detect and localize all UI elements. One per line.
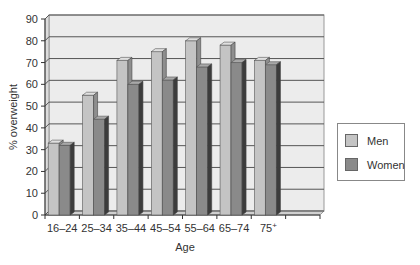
svg-text:65–74: 65–74 xyxy=(219,222,250,234)
legend-label-men: Men xyxy=(367,135,388,147)
svg-text:60: 60 xyxy=(26,78,38,90)
svg-text:50: 50 xyxy=(26,100,38,112)
men-swatch-icon xyxy=(345,134,358,147)
legend-item-men: Men xyxy=(345,134,388,147)
svg-text:25–34: 25–34 xyxy=(81,222,112,234)
svg-text:55–64: 55–64 xyxy=(184,222,215,234)
svg-text:80: 80 xyxy=(26,35,38,47)
svg-text:10: 10 xyxy=(26,187,38,199)
svg-text:35–44: 35–44 xyxy=(116,222,147,234)
svg-text:% overweight: % overweight xyxy=(7,84,19,150)
women-swatch-icon xyxy=(345,158,358,171)
svg-text:0: 0 xyxy=(32,209,38,221)
svg-text:40: 40 xyxy=(26,122,38,134)
svg-text:Age: Age xyxy=(175,241,195,253)
legend-label-women: Women xyxy=(367,159,405,171)
svg-text:70: 70 xyxy=(26,57,38,69)
svg-text:90: 90 xyxy=(26,13,38,25)
svg-text:75+: 75+ xyxy=(260,221,277,234)
svg-text:16–24: 16–24 xyxy=(47,222,78,234)
svg-text:45–54: 45–54 xyxy=(150,222,181,234)
chart-legend: Men Women xyxy=(337,123,405,181)
legend-item-women: Women xyxy=(345,158,405,171)
svg-text:20: 20 xyxy=(26,165,38,177)
svg-text:30: 30 xyxy=(26,144,38,156)
